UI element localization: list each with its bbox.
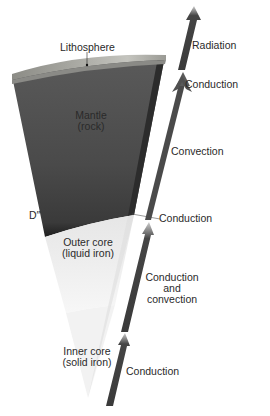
label-outer-conduction-convection: Conduction and convection	[140, 272, 204, 305]
label-d-double-prime: D″	[29, 210, 40, 221]
label-inner-core-line2: (solid iron)	[60, 357, 114, 368]
label-convection: Convection	[171, 146, 224, 157]
label-radiation: Radiation	[192, 40, 236, 51]
label-mantle: Mantle (rock)	[66, 110, 116, 132]
label-conduction-top: Conduction	[185, 79, 238, 90]
earth-cross-section-diagram	[0, 0, 270, 416]
label-lithosphere: Lithosphere	[60, 42, 115, 53]
label-conduction-inner: Conduction	[126, 366, 179, 377]
label-outer-core-line2: (liquid iron)	[56, 248, 120, 259]
label-occ-line3: convection	[140, 294, 204, 305]
arrow-radiation	[178, 6, 201, 70]
label-inner-core: Inner core (solid iron)	[60, 346, 114, 368]
label-mantle-line2: (rock)	[66, 121, 116, 132]
label-outer-core: Outer core (liquid iron)	[56, 237, 120, 259]
label-conduction-cmb: Conduction	[159, 213, 212, 224]
